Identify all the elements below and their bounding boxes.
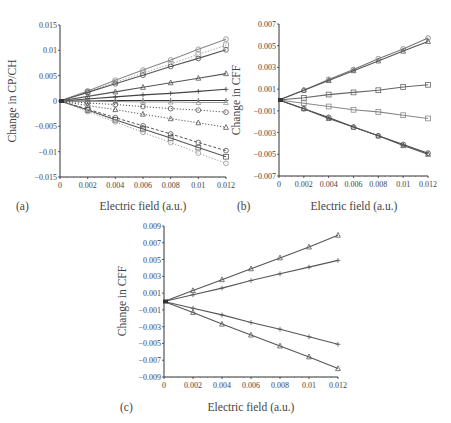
circle-marker	[141, 130, 146, 135]
panel-c-plot: 0.0090.0070.0050.0030.001−0.001−0.003−0.…	[138, 222, 347, 390]
y-tick-label: −0.007	[138, 356, 161, 365]
circle-marker	[224, 110, 229, 115]
y-tick-label: 0.007	[258, 20, 276, 29]
series-line	[164, 302, 338, 369]
x-tick-label: 0.004	[213, 381, 231, 390]
panel-a: 0.0150.010.0050−0.005−0.01−0.01500.0020.…	[6, 21, 235, 213]
origin-marker	[278, 98, 283, 102]
y-tick-label: 0.001	[258, 85, 276, 94]
series-line	[279, 41, 428, 100]
x-tick-label: 0.004	[106, 181, 124, 190]
y-tick-label: 0.005	[258, 42, 276, 51]
x-tick-label: 0.002	[295, 180, 313, 189]
circle-marker	[224, 161, 229, 166]
y-tick-label: −0.001	[253, 107, 276, 116]
panel-c: 0.0090.0070.0050.0030.001−0.001−0.003−0.…	[116, 222, 347, 414]
y-tick-label: 0.01	[43, 46, 57, 55]
y-tick-label: −0.009	[138, 373, 161, 382]
series-s6	[279, 100, 430, 156]
x-tick-label: 0.002	[184, 381, 202, 390]
origin-marker	[59, 99, 64, 103]
x-tick-label: 0	[277, 180, 281, 189]
panel-b-ylabel: Change in CFF	[230, 65, 243, 135]
y-tick-label: 0.003	[258, 63, 276, 72]
y-tick-label: 0.009	[143, 222, 161, 231]
panel-b-plot: 0.0070.0050.0030.001−0.001−0.003−0.005−0…	[253, 20, 437, 189]
x-tick-label: 0	[58, 181, 62, 190]
plus-marker	[249, 278, 254, 283]
y-tick-label: −0.005	[34, 122, 57, 131]
plus-marker	[220, 313, 225, 318]
y-tick-label: −0.005	[138, 339, 161, 348]
series-s12	[60, 101, 228, 166]
plus-marker	[278, 271, 283, 276]
panel-a-ylabel: Change in CP/CH	[6, 59, 19, 142]
y-tick-label: −0.003	[138, 323, 161, 332]
plus-marker	[336, 258, 341, 263]
plus-marker	[307, 334, 312, 339]
triangle-marker	[141, 111, 146, 116]
circle-marker	[168, 106, 173, 111]
square-marker	[224, 154, 229, 159]
panel-b: 0.0070.0050.0030.001−0.001−0.003−0.005−0…	[230, 20, 437, 213]
y-tick-label: −0.01	[38, 148, 57, 157]
y-tick-label: 0.007	[143, 239, 161, 248]
triangle-marker	[224, 71, 229, 76]
panel-a-plot: 0.0150.010.0050−0.005−0.01−0.01500.0020.…	[34, 21, 235, 190]
triangle-marker	[336, 232, 341, 237]
plus-marker	[224, 87, 229, 92]
x-tick-label: 0.008	[162, 181, 180, 190]
x-tick-label: 0.006	[345, 180, 363, 189]
circle-marker	[224, 37, 229, 42]
panel-c-xlabel: Electric field (a.u.)	[208, 401, 295, 414]
y-tick-label: 0.001	[143, 289, 161, 298]
plus-marker	[278, 327, 283, 332]
series-s3	[60, 47, 228, 101]
x-tick-label: 0.012	[217, 181, 235, 190]
plus-marker	[191, 292, 196, 297]
plus-marker	[168, 91, 173, 96]
y-tick-label: 0.005	[143, 256, 161, 265]
series-s2	[164, 258, 340, 302]
panel-c-label: (c)	[120, 401, 133, 414]
x-tick-label: 0.012	[329, 381, 347, 390]
y-tick-label: −0.015	[34, 173, 57, 182]
y-tick-label: 0	[53, 97, 57, 106]
x-tick-label: 0.006	[242, 381, 260, 390]
panel-c-ylabel: Change in CFF	[116, 266, 129, 336]
plus-marker	[307, 265, 312, 270]
x-tick-label: 0.01	[302, 381, 316, 390]
y-tick-label: 0.005	[39, 72, 57, 81]
y-tick-label: 0.015	[39, 21, 57, 30]
panel-b-xlabel: Electric field (a.u.)	[311, 200, 398, 213]
x-tick-label: 0.012	[419, 180, 437, 189]
x-tick-label: 0.006	[134, 181, 152, 190]
x-tick-label: 0.002	[79, 181, 97, 190]
x-tick-label: 0.008	[271, 381, 289, 390]
x-tick-label: 0.01	[191, 181, 205, 190]
y-tick-label: −0.001	[138, 306, 161, 315]
y-tick-label: −0.007	[253, 172, 276, 181]
plus-marker	[336, 342, 341, 347]
plus-marker	[220, 286, 225, 291]
x-tick-label: 0.01	[396, 180, 410, 189]
x-tick-label: 0	[162, 381, 166, 390]
series-line	[279, 100, 428, 154]
y-tick-label: −0.003	[253, 129, 276, 138]
origin-marker	[163, 300, 168, 304]
panel-b-label: (b)	[237, 200, 251, 213]
square-marker	[224, 43, 229, 48]
series-line	[164, 235, 338, 301]
figure: 0.0150.010.0050−0.005−0.01−0.01500.0020.…	[0, 0, 451, 423]
circle-marker	[168, 140, 173, 145]
y-tick-label: −0.005	[253, 150, 276, 159]
plus-marker	[141, 93, 146, 98]
plus-marker	[249, 320, 254, 325]
series-s3	[164, 302, 340, 347]
series-s4	[164, 302, 340, 371]
x-tick-label: 0.008	[369, 180, 387, 189]
y-tick-label: 0.003	[143, 272, 161, 281]
series-s9	[60, 101, 228, 129]
panel-a-label: (a)	[16, 200, 29, 213]
panel-a-xlabel: Electric field (a.u.)	[100, 200, 187, 213]
